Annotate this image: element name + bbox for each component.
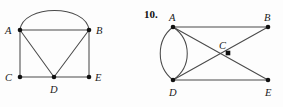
vertex-label-right-B: B [264,12,271,23]
vertex-right-B [266,25,271,30]
vertex-label-left-E: E [94,72,102,83]
edge-left-B-D [54,30,89,77]
graph-left: A B C D E [4,11,103,96]
vertex-label-right-A: A [168,12,176,23]
vertex-right-E [266,78,271,83]
figure-number-label: 10. [144,8,158,20]
vertex-left-C [18,75,23,80]
graph-figure-svg: A B C D E 10. A [0,0,283,107]
vertex-label-left-B: B [96,25,103,36]
edge-left-A-D [20,30,54,77]
figure-container: A B C D E 10. A [0,0,283,107]
vertex-right-D [171,78,176,83]
edge-right-A-D-arc-left [160,27,173,80]
vertex-label-right-E: E [264,87,272,98]
vertex-label-left-D: D [49,84,58,95]
vertex-label-right-D: D [168,87,177,98]
vertex-left-A [18,28,23,33]
vertex-label-right-C: C [219,40,227,51]
vertex-left-E [87,75,92,80]
graph-right: A B C D E [160,12,272,98]
vertex-right-C [226,51,231,56]
edge-right-A-D-arc-right [173,27,187,80]
vertex-label-left-A: A [4,25,12,36]
vertex-label-left-C: C [5,72,13,83]
vertex-right-A [171,25,176,30]
vertex-left-D [52,75,57,80]
vertex-left-B [87,28,92,33]
edge-left-A-B-arc [20,11,89,31]
